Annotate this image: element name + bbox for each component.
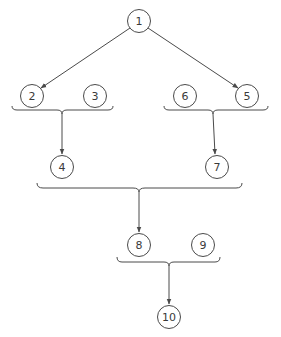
edge-group-6-5-to-7 [213, 114, 215, 154]
node-8: 8 [128, 234, 151, 257]
node-9: 9 [192, 234, 215, 257]
node-5: 5 [236, 85, 259, 108]
dependency-diagram: 1 2 3 6 5 4 7 8 9 10 [0, 0, 281, 337]
brace-group-4-7 [37, 183, 242, 192]
node-2: 2 [21, 85, 44, 108]
node-3: 3 [84, 85, 107, 108]
edge-1-to-2 [41, 28, 130, 88]
node-4: 4 [51, 156, 74, 179]
node-8-label: 8 [136, 239, 143, 252]
node-9-label: 9 [200, 239, 207, 252]
brace-group-8-9 [117, 257, 220, 266]
node-1-label: 1 [136, 15, 143, 28]
node-5-label: 5 [244, 90, 251, 103]
node-10: 10 [158, 306, 181, 329]
node-3-label: 3 [92, 90, 99, 103]
node-7: 7 [206, 156, 229, 179]
node-6-label: 6 [182, 90, 189, 103]
brace-group-6-5 [164, 106, 268, 114]
node-10-label: 10 [162, 311, 176, 324]
edge-1-to-5 [148, 28, 238, 88]
node-6: 6 [174, 85, 197, 108]
node-7-label: 7 [214, 161, 221, 174]
node-1: 1 [128, 10, 151, 33]
node-2-label: 2 [29, 90, 36, 103]
node-4-label: 4 [59, 161, 66, 174]
